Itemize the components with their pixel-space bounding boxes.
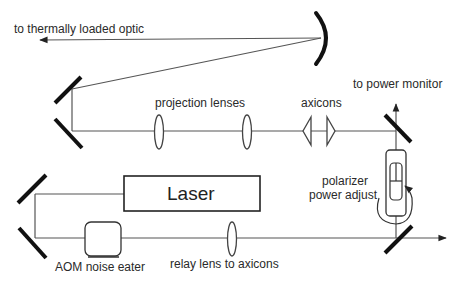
mirror-top-left-upper-icon: [55, 77, 81, 103]
relay-lens-icon: [228, 222, 237, 256]
projection-lens-2-icon: [243, 115, 252, 149]
label-laser: Laser: [167, 184, 215, 203]
mirror-bottom-left-lower-icon: [19, 228, 46, 258]
label-power-adjust: power adjust: [309, 189, 377, 201]
label-aom-noise-eater: AOM noise eater: [55, 261, 145, 273]
mirror-bottom-left-upper-icon: [18, 175, 46, 203]
axicon-2-icon: [327, 117, 335, 145]
mirror-upper-right-icon: [385, 115, 411, 142]
label-polarizer: polarizer: [315, 175, 375, 187]
axicon-1-icon: [303, 117, 311, 145]
beam-to-curved-mirror: [72, 38, 321, 89]
label-thermal-optic: to thermally loaded optic: [14, 23, 144, 35]
projection-lens-1-icon: [155, 115, 164, 149]
label-relay-lens: relay lens to axicons: [170, 258, 279, 270]
label-projection-lenses: projection lenses: [155, 97, 245, 109]
label-power-monitor: to power monitor: [353, 78, 442, 90]
beam-to-thermal-optic: [40, 38, 321, 40]
mirror-lower-right-icon: [385, 226, 412, 253]
mirror-top-left-lower-icon: [55, 119, 82, 148]
polarizer-icon: [386, 150, 406, 216]
aom-box: [85, 222, 121, 256]
optical-setup-diagram: [0, 0, 463, 286]
label-axicons: axicons: [301, 97, 342, 109]
